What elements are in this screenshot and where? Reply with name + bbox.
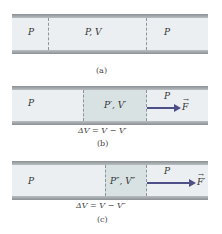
force-arrow-shaft (147, 182, 190, 184)
delta-v-equation: ΔV = V − V″ (76, 201, 126, 210)
vector-arrow-icon: → (198, 171, 204, 179)
region-label-right: P (164, 166, 170, 176)
force-label: → F′ (197, 177, 205, 187)
force-arrow-head (189, 179, 196, 187)
region-label-left: P (28, 176, 34, 186)
divider-left (105, 165, 106, 196)
tube-bottom-wall (12, 196, 208, 200)
divider-right (146, 165, 147, 196)
panel-c: P P″, V″ P → F′ ΔV = V − V″ (c) (0, 0, 222, 234)
region-label-middle: P″, V″ (110, 176, 135, 186)
caption-c: (c) (97, 215, 108, 224)
